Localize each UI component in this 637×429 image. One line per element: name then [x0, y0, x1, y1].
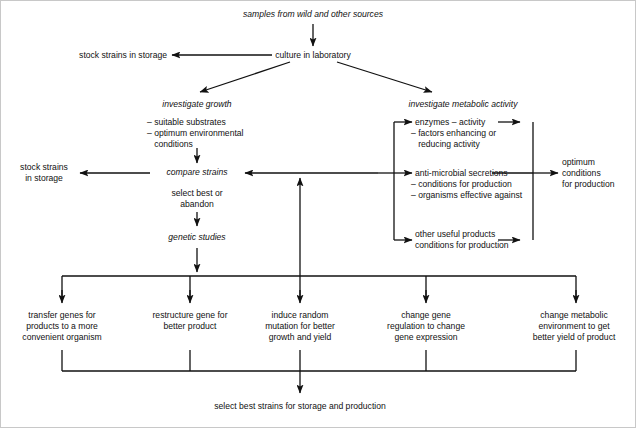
branch-change-regulation-line3: gene expression [394, 332, 457, 343]
optimum-line-1: optimum [562, 157, 595, 168]
node-genetic-studies: genetic studies [168, 232, 225, 243]
branch-transfer-genes-line3: convenient organism [22, 332, 101, 343]
branch-transfer-genes-line2: products to a more [26, 321, 98, 332]
arrow-culture-to-metabolic [337, 62, 432, 92]
node-final-output: select best strains for storage and prod… [214, 401, 386, 412]
node-culture: culture in laboratory [275, 50, 350, 61]
enzymes-line-1: enzymes – activity [415, 117, 485, 128]
growth-item-2: – optimum environmental [147, 128, 244, 139]
branch-change-metabolic-line1: change metabolic [540, 310, 607, 321]
node-stock-left-line1: stock strains [20, 162, 68, 173]
branch-change-regulation-line2: regulation to change [387, 321, 465, 332]
branch-induce-mutation-line2: mutation for better [265, 321, 335, 332]
branch-induce-mutation-line1: induce random [272, 310, 329, 321]
other-products-line-1: other useful products [415, 229, 495, 240]
node-select-best-line1: select best or [171, 188, 222, 199]
flowchart-diagram: samples from wild and other sources cult… [0, 0, 637, 429]
growth-item-1: – suitable substrates [147, 117, 226, 128]
branch-change-metabolic-line3: better yield of product [533, 332, 616, 343]
other-products-line-2: conditions for production [415, 240, 509, 251]
enzymes-line-2: – factors enhancing or [411, 128, 496, 139]
antimicrobial-line-2: – conditions for production [411, 179, 512, 190]
node-stock-top: stock strains in storage [79, 50, 167, 61]
branch-restructure-gene-line2: better product [163, 321, 216, 332]
branch-change-metabolic-line2: environment to get [538, 321, 609, 332]
branch-change-regulation-line1: change gene [401, 310, 451, 321]
antimicrobial-line-1: anti-microbial secretions [415, 168, 508, 179]
flowchart-connectors [0, 0, 637, 429]
branch-induce-mutation-line3: growth and yield [269, 332, 332, 343]
arrow-culture-to-growth [200, 62, 290, 92]
antimicrobial-line-3: – organisms effective against [411, 190, 522, 201]
optimum-line-2: conditions [562, 168, 601, 179]
node-investigate-metabolic: investigate metabolic activity [409, 99, 518, 110]
branch-restructure-gene-line1: restructure gene for [153, 310, 228, 321]
optimum-line-3: for production [562, 179, 615, 190]
node-stock-left-line2: in storage [25, 173, 63, 184]
node-select-best-line2: abandon [180, 199, 213, 210]
enzymes-line-3: reducing activity [411, 139, 480, 150]
node-samples: samples from wild and other sources [243, 9, 383, 20]
branch-transfer-genes-line1: transfer genes for [28, 310, 95, 321]
growth-item-3: conditions [147, 139, 193, 150]
node-compare-strains: compare strains [166, 167, 227, 178]
node-investigate-growth: investigate growth [162, 99, 231, 110]
